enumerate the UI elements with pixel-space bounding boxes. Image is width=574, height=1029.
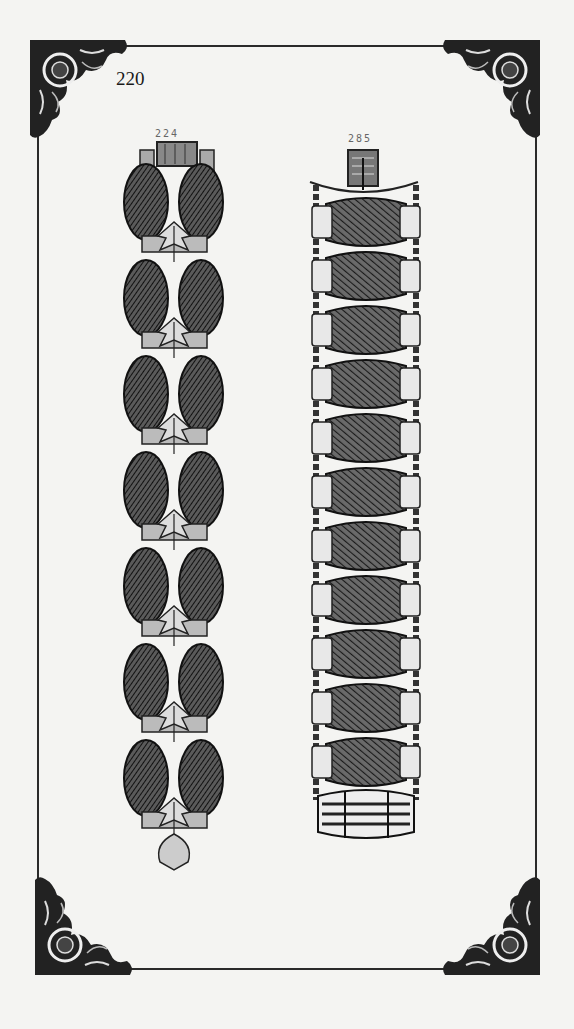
bracelet-224 [124,142,223,870]
corner-ornament-top-left [30,40,127,138]
bracelet-285 [310,150,420,838]
corner-ornament-top-right [443,40,540,138]
barrel-end-piece [318,790,414,838]
engraving-plate [0,0,574,1029]
corner-ornament-bottom-right [443,877,540,975]
corner-ornament-bottom-left [35,877,132,975]
